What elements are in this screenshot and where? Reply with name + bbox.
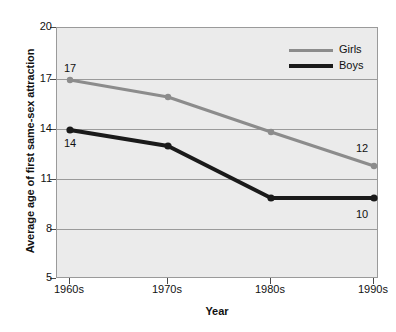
x-axis-title: Year [56,305,378,317]
girls-line [70,80,374,166]
girls-point-1990s [371,163,377,169]
data-label-girls-1960s: 17 [64,63,76,74]
boys-point-1990s [370,194,377,201]
legend-label-girls: Girls [339,42,362,57]
data-label-boys-1990s: 10 [356,209,368,220]
boys-point-1980s [267,194,274,201]
y-tick-label-5: 5 [12,272,52,283]
line-chart: Average age of first same-sex attraction… [0,0,396,332]
girls-point-1960s [67,77,73,83]
y-tick-label-8: 8 [12,223,52,234]
y-tick-label-11: 11 [12,173,52,184]
x-tick-label-1980s: 1980s [235,283,305,295]
girls-point-1970s [165,94,171,100]
x-tick-label-1970s: 1970s [132,283,202,295]
y-tick-label-20: 20 [12,21,52,32]
y-tick-label-17: 17 [12,73,52,84]
girls-point-1980s [268,129,274,135]
legend-label-boys: Boys [339,58,363,73]
data-label-boys-1960s: 14 [64,138,76,149]
boys-point-1960s [66,126,73,133]
girls-line-swatch [289,49,333,52]
data-label-girls-1990s: 12 [356,143,368,154]
boys-line [70,130,374,198]
y-tick-label-14: 14 [12,123,52,134]
boys-line-swatch [289,64,333,68]
legend-item-boys: Boys [289,58,375,74]
boys-point-1970s [164,142,171,149]
plot-area: Girls Boys 17 12 14 10 [56,27,378,278]
legend-item-girls: Girls [289,42,375,58]
y-axis-title: Average age of first same-sex attraction [24,26,36,276]
x-tick-label-1990s: 1990s [338,283,396,295]
x-tick-label-1960s: 1960s [34,283,104,295]
legend: Girls Boys [289,42,375,74]
